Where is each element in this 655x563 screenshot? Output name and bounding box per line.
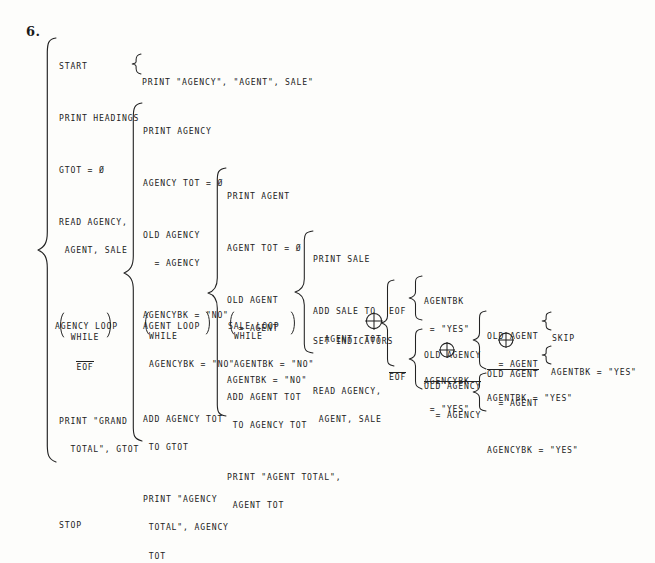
stop-step: STOP bbox=[59, 521, 139, 530]
print-agency-step: PRINT AGENCY bbox=[143, 127, 229, 136]
agency-notequal-actions: AGENTBK = "YES" AGENCYBK = "YES" bbox=[487, 375, 579, 474]
print-agent-total-line2: AGENT TOT bbox=[227, 501, 341, 510]
brace-level-3 bbox=[206, 166, 228, 418]
print-agent-total-line1: PRINT "AGENT TOTAL", bbox=[227, 473, 341, 482]
xor-symbol-indicators bbox=[364, 311, 384, 331]
brace-eof-branch bbox=[408, 274, 424, 322]
agency-loop-condition: WHILE EOF bbox=[67, 314, 103, 391]
brace-level-1 bbox=[36, 36, 58, 464]
ne-agentbk-yes-action: AGENTBK = "YES" bbox=[487, 394, 579, 403]
sale-loop-test: AGENTBK = "NO" bbox=[234, 360, 314, 369]
print-grand-total-line2: TOTAL", GTOT bbox=[59, 445, 139, 454]
agency-loop-paren-right bbox=[106, 312, 114, 338]
print-agent-step: PRINT AGENT bbox=[227, 192, 307, 201]
xor-symbol-agency bbox=[438, 341, 456, 359]
brace-agency-equal bbox=[472, 309, 488, 371]
agency-loop-while: WHILE bbox=[67, 333, 103, 342]
brace-agency-notequal bbox=[472, 371, 488, 413]
eof-agentbk-line1: AGENTBK bbox=[424, 297, 470, 306]
read-record-line2: AGENT, SALE bbox=[313, 415, 382, 424]
print-headings-detail-text: PRINT "AGENCY", "AGENT", SALE" bbox=[142, 78, 314, 87]
read-record-line1: READ AGENCY, bbox=[313, 387, 382, 396]
agency-loop-paren-left bbox=[57, 312, 65, 338]
level2-bottom-items: ADD AGENCY TOT TO GTOT PRINT "AGENCY TOT… bbox=[143, 396, 229, 563]
print-agency-total-line3: TOT bbox=[143, 552, 229, 561]
print-agency-total-line2: TOTAL", AGENCY bbox=[143, 523, 229, 532]
ne-agencybk-yes-action: AGENCYBK = "YES" bbox=[487, 446, 579, 455]
brace-level-4 bbox=[293, 229, 315, 355]
print-agency-total-line1: PRINT "AGENCY bbox=[143, 495, 229, 504]
xor-symbol-agent bbox=[497, 331, 515, 349]
brace-not-eof-branch bbox=[408, 327, 424, 391]
agency-loop-not-eof: EOF bbox=[67, 361, 103, 372]
print-headings-detail: PRINT "AGENCY", "AGENT", SALE" bbox=[142, 59, 314, 106]
skip-action: SKIP bbox=[552, 334, 575, 343]
add-agency-tot-line2: TO GTOT bbox=[143, 443, 229, 452]
brace-level-2 bbox=[122, 101, 144, 443]
start-step: START bbox=[59, 62, 139, 71]
print-sale-step: PRINT SALE bbox=[313, 255, 382, 264]
